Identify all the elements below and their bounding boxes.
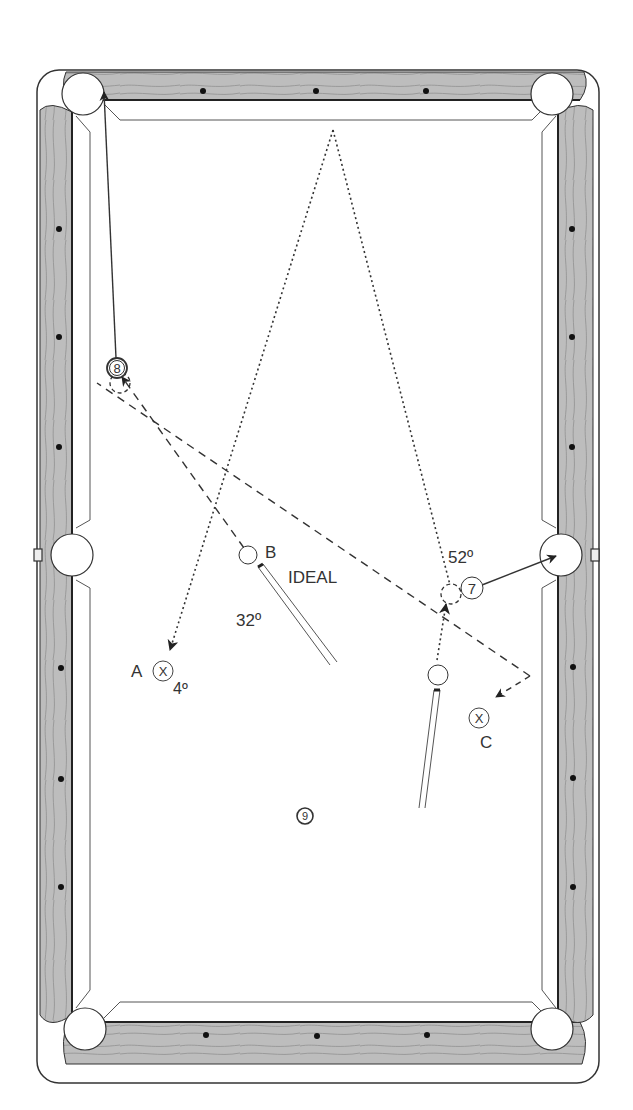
ball-8: 8 [107,358,127,378]
pocket-right-side [540,534,582,576]
label-angle-b: 32º [236,611,261,630]
label-angle-a: 4º [173,680,188,697]
ball-7: 7 [461,577,483,599]
pocket-bottom-right [531,1008,573,1050]
pool-table-diagram: 8 7 9 X X A 4º B IDEAL 32º 52º [0,0,633,1110]
label-a: A [131,662,143,681]
pocket-top-right [531,73,573,115]
target-marker-c: X [469,708,489,728]
svg-text:X: X [475,711,484,726]
label-b: B [265,543,276,562]
label-c: C [480,733,492,752]
label-ideal: IDEAL [288,568,337,587]
pocket-left-side [51,534,93,576]
target-marker-a: X [153,661,173,681]
rail-top [63,72,586,100]
cue-ball-right [428,665,448,685]
svg-text:X: X [159,664,168,679]
svg-text:7: 7 [468,580,476,597]
ball-9: 9 [297,808,313,824]
pocket-bottom-left [64,1008,106,1050]
rail-bottom [63,1022,585,1064]
cue-ball-b [239,546,257,564]
label-angle-7: 52º [448,548,473,567]
pocket-top-left [62,73,104,115]
svg-text:9: 9 [302,810,308,822]
svg-text:8: 8 [113,361,120,376]
